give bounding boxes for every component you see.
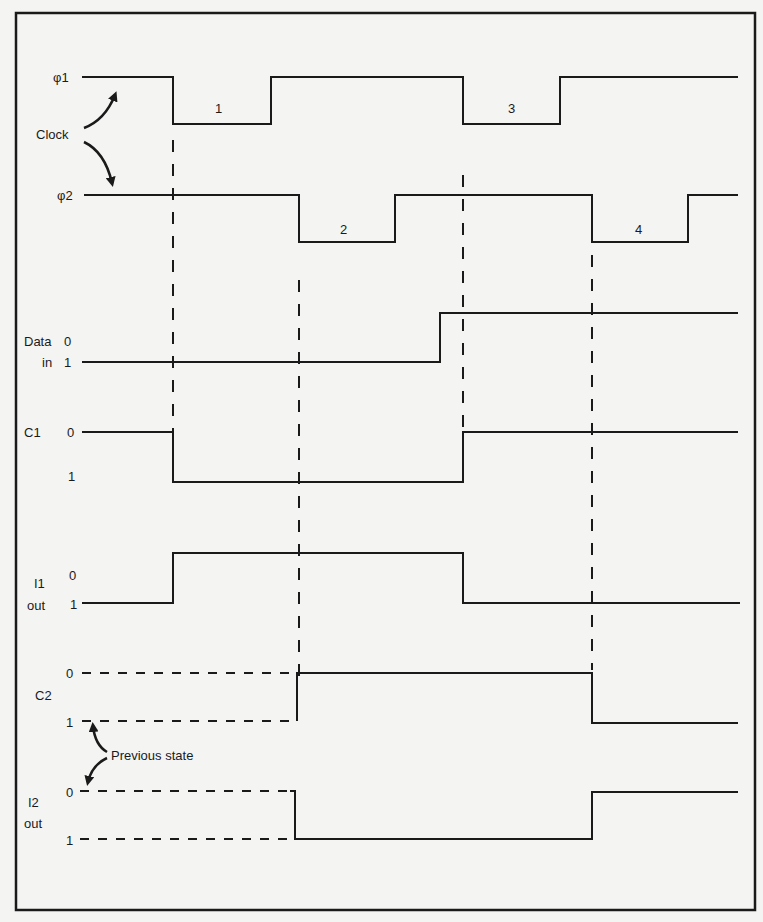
pulse-label-2: 2 bbox=[340, 222, 347, 237]
i1-out-level1: 1 bbox=[70, 597, 77, 612]
i2-out-level0: 0 bbox=[66, 785, 73, 800]
pulse-label-3: 3 bbox=[508, 101, 515, 116]
i2-out-waveform bbox=[290, 791, 738, 839]
clock-arrow-to-phi1 bbox=[84, 95, 115, 128]
clock-label: Clock bbox=[36, 127, 69, 142]
clock-arrow-to-phi2 bbox=[84, 142, 112, 183]
c1-label: C1 bbox=[24, 425, 41, 440]
phi1-waveform bbox=[82, 77, 738, 124]
data-in-level0: 0 bbox=[64, 334, 71, 349]
previous-state-arrow-down bbox=[88, 758, 107, 782]
timing-diagram: φ1 φ2 Clock 1 3 2 4 Data 0 in 1 C1 0 1 0… bbox=[0, 0, 763, 922]
c1-waveform bbox=[82, 432, 738, 482]
phi1-label: φ1 bbox=[53, 70, 69, 85]
c2-level0: 0 bbox=[66, 666, 73, 681]
i2-out-label-line2: out bbox=[24, 816, 42, 831]
c1-level1: 1 bbox=[68, 469, 75, 484]
i2-out-label-line1: I2 bbox=[28, 795, 39, 810]
c2-level1: 1 bbox=[66, 715, 73, 730]
i1-out-label-line2: out bbox=[27, 598, 45, 613]
data-in-label-line2: in bbox=[42, 355, 52, 370]
previous-state-arrow-up bbox=[93, 726, 107, 752]
data-in-waveform bbox=[82, 313, 738, 362]
i1-out-waveform bbox=[82, 553, 740, 603]
i1-out-level0: 0 bbox=[69, 568, 76, 583]
previous-state-label: Previous state bbox=[111, 748, 193, 763]
figure-frame bbox=[16, 13, 755, 910]
phi2-label: φ2 bbox=[57, 188, 73, 203]
data-in-label-line1: Data bbox=[24, 334, 52, 349]
c2-label: C2 bbox=[35, 688, 52, 703]
data-in-level1: 1 bbox=[64, 355, 71, 370]
pulse-label-1: 1 bbox=[215, 101, 222, 116]
pulse-label-4: 4 bbox=[635, 222, 642, 237]
c1-level0: 0 bbox=[67, 425, 74, 440]
c2-waveform bbox=[297, 673, 738, 723]
i1-out-label-line1: I1 bbox=[34, 576, 45, 591]
i2-out-level1: 1 bbox=[66, 833, 73, 848]
